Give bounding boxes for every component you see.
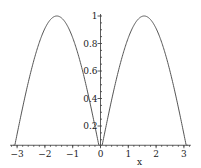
x-tick-label: 1 xyxy=(125,149,131,159)
y-tick-label: 0.8 xyxy=(83,39,98,49)
x-tick-label: −1 xyxy=(66,149,79,159)
plot: −3−2−101230.20.40.60.81x xyxy=(0,0,201,168)
y-tick-label: 0.6 xyxy=(83,66,98,76)
y-tick-label: 0.2 xyxy=(83,121,97,131)
x-tick-label: −2 xyxy=(38,149,51,159)
x-tick-label: −3 xyxy=(10,149,24,159)
x-axis-label: x xyxy=(137,157,142,167)
x-tick-label: 2 xyxy=(153,149,159,159)
y-tick-label: 1 xyxy=(92,11,98,21)
x-tick-label: 0 xyxy=(98,149,104,159)
axes xyxy=(10,14,191,148)
y-tick-label: 0.4 xyxy=(83,94,98,104)
x-tick-label: 3 xyxy=(181,149,187,159)
